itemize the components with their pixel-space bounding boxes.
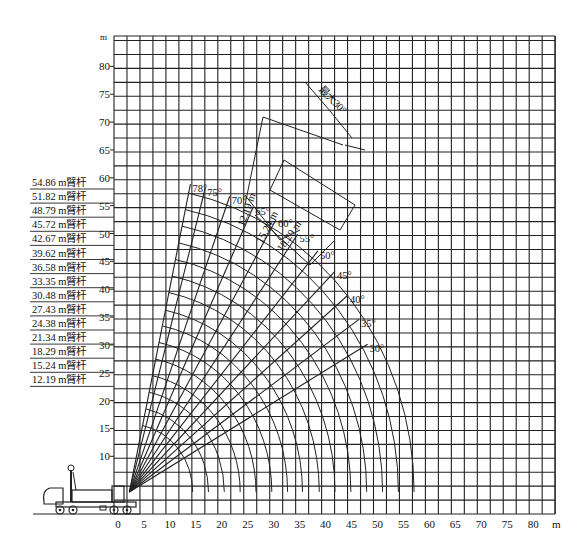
y-tick-label: 35 bbox=[99, 311, 111, 323]
x-tick-label: 30 bbox=[268, 518, 280, 530]
boom-length-label: 24.38 m臂杆 bbox=[32, 317, 87, 329]
angle-label-45: 45° bbox=[337, 270, 352, 281]
y-tick-label: 80 bbox=[99, 60, 111, 72]
y-tick-label: 50 bbox=[99, 228, 111, 240]
boom-length-label: 18.29 m臂杆 bbox=[32, 345, 87, 357]
y-tick-label: 25 bbox=[99, 367, 111, 379]
boom-length-label: 48.79 m臂杆 bbox=[32, 204, 87, 216]
x-tick-label: 70 bbox=[476, 518, 488, 530]
boom-arc bbox=[165, 310, 302, 492]
boom-length-label: 33.35 m臂杆 bbox=[32, 275, 87, 287]
y-tick-label: 30 bbox=[99, 339, 111, 351]
y-tick-label: 55 bbox=[99, 200, 111, 212]
boom-length-label: 39.62 m臂杆 bbox=[32, 247, 87, 259]
y-tick-label: 65 bbox=[99, 144, 111, 156]
angle-label-50: 50° bbox=[320, 250, 335, 261]
angle-label-35: 35° bbox=[361, 318, 376, 329]
x-tick-label: 45 bbox=[346, 518, 358, 530]
x-tick-label: 65 bbox=[450, 518, 462, 530]
y-tick-label: 75 bbox=[99, 88, 111, 100]
boom-length-label: 54.86 m臂杆 bbox=[32, 176, 87, 188]
x-tick-label: 15 bbox=[190, 518, 202, 530]
boom-length-label: 42.67 m臂杆 bbox=[32, 232, 87, 244]
boom-length-label: 21.34 m臂杆 bbox=[32, 331, 87, 343]
boom-arc bbox=[162, 326, 287, 492]
y-tick-label: 40 bbox=[99, 283, 111, 295]
angle-label-75: 75° bbox=[207, 187, 222, 198]
angle-line-30 bbox=[129, 344, 367, 492]
jib-line bbox=[263, 117, 343, 145]
crane-working-range-chart: 最大30°12.19 m15.24 m18.29 m 0510152025303… bbox=[0, 0, 587, 557]
angle-labels: 78°75°70°65°60°55°50°45°40°35°30° bbox=[192, 183, 384, 354]
x-tick-label: 20 bbox=[216, 518, 228, 530]
x-tick-label: 25 bbox=[242, 518, 254, 530]
angle-label-78: 78° bbox=[192, 183, 207, 194]
y-tick-label: 60 bbox=[99, 172, 111, 184]
angle-label-55: 55° bbox=[300, 233, 315, 244]
y-tick-label: 20 bbox=[99, 395, 111, 407]
x-tick-label: 40 bbox=[320, 518, 332, 530]
x-tick-label: 5 bbox=[141, 518, 147, 530]
boom-length-label: 30.48 m臂杆 bbox=[32, 289, 87, 301]
x-tick-label: 75 bbox=[502, 518, 514, 530]
angle-label-40: 40° bbox=[350, 294, 365, 305]
boom-length-label: 15.24 m臂杆 bbox=[32, 359, 87, 371]
angle-line-45 bbox=[129, 271, 334, 492]
x-axis-ticks: 05101520253035404550556065707580 bbox=[115, 518, 539, 530]
angle-label-70: 70° bbox=[232, 195, 247, 206]
x-tick-label: 35 bbox=[294, 518, 306, 530]
x-tick-label: 10 bbox=[164, 518, 176, 530]
y-axis-unit: m bbox=[100, 32, 107, 42]
angle-line-60 bbox=[129, 219, 276, 492]
y-tick-label: 70 bbox=[99, 116, 111, 128]
boom-arc bbox=[146, 409, 209, 492]
boom-length-label: 45.72 m臂杆 bbox=[32, 218, 87, 230]
angle-line-75 bbox=[129, 188, 205, 492]
boom-length-label: 36.58 m臂杆 bbox=[32, 261, 87, 273]
x-axis-unit: m bbox=[552, 518, 561, 530]
x-tick-label: 55 bbox=[398, 518, 410, 530]
angle-label-65: 65° bbox=[255, 206, 270, 217]
x-tick-label: 50 bbox=[372, 518, 384, 530]
y-tick-label: 10 bbox=[99, 450, 111, 462]
y-tick-label: 15 bbox=[99, 422, 111, 434]
y-axis-ticks: 101520253035404550556065707580 bbox=[99, 60, 114, 462]
boom-length-label: 12.19 m臂杆 bbox=[32, 373, 87, 385]
angle-label-60: 60° bbox=[278, 218, 293, 229]
x-tick-label: 80 bbox=[528, 518, 540, 530]
x-tick-label: 60 bbox=[424, 518, 436, 530]
angle-label-30: 30° bbox=[370, 343, 385, 354]
boom-length-label: 27.43 m臂杆 bbox=[32, 303, 87, 315]
boom-arc bbox=[149, 392, 224, 492]
x-tick-label: 0 bbox=[115, 518, 121, 530]
y-tick-label: 45 bbox=[99, 255, 111, 267]
boom-arc bbox=[172, 276, 335, 492]
boom-length-label: 51.82 m臂杆 bbox=[32, 190, 87, 202]
